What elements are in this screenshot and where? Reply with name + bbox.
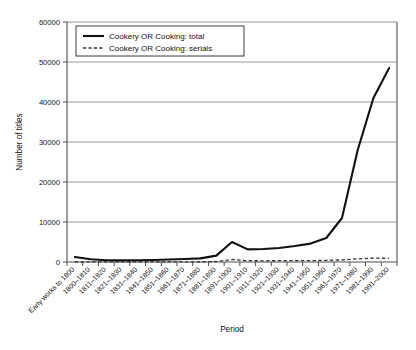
y-tick-label: 30000 — [39, 138, 60, 147]
y-tick-label: 50000 — [39, 58, 60, 67]
x-axis-title: Period — [220, 325, 244, 334]
legend-label-total: Cookery OR Cooking: total — [109, 32, 204, 41]
y-tick-label: 0 — [56, 258, 60, 267]
y-tick-label: 20000 — [39, 178, 60, 187]
chart-figure: 0100002000030000400005000060000 Early wo… — [0, 0, 416, 350]
y-tick-label: 60000 — [39, 18, 60, 27]
line-chart: 0100002000030000400005000060000 Early wo… — [0, 0, 416, 350]
y-axis-title: Number of titles — [15, 113, 24, 170]
legend-label-serials: Cookery OR Cooking: serials — [109, 44, 212, 53]
y-tick-label: 40000 — [39, 98, 60, 107]
y-tick-label: 10000 — [39, 218, 60, 227]
chart-legend: Cookery OR Cooking: total Cookery OR Coo… — [76, 26, 244, 56]
